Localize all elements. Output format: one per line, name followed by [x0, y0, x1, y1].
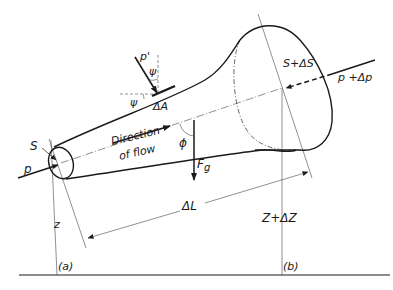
psi-top-arc: [149, 79, 158, 80]
stream-tube-diagram: S p p' ψ ψ ΔA Direction of flow ϕ Fg S+Δ…: [0, 0, 393, 290]
section-b-ellipse-solid: [240, 26, 332, 150]
section-plane-b: [258, 14, 312, 178]
label-p-plus-dp: p +Δp: [337, 71, 372, 84]
label-S: S: [30, 139, 38, 153]
label-psi-left: ψ: [130, 96, 138, 109]
label-delta-A: ΔA: [152, 100, 168, 113]
label-S-plus-dS: S+ΔS: [283, 57, 314, 70]
tube-lower-edge: [66, 150, 296, 179]
label-z: z: [53, 218, 60, 231]
phi-angle-arc: [180, 124, 194, 136]
label-Fg: Fg: [197, 157, 210, 173]
delta-L-dim-left: [88, 211, 180, 238]
section-plane-a: [49, 139, 86, 248]
label-p: p: [23, 162, 32, 176]
label-phi: ϕ: [179, 136, 187, 150]
delta-L-dim-right: [205, 172, 308, 203]
label-Z-plus-dZ: Z+ΔZ: [261, 211, 297, 225]
label-p-prime: p': [139, 50, 150, 63]
label-psi-top: ψ: [149, 65, 157, 78]
label-section-a: (a): [58, 260, 73, 273]
psi-left-arc: [143, 94, 144, 99]
label-delta-L: ΔL: [181, 199, 197, 213]
label-g-subscript: g: [204, 162, 210, 173]
label-section-b: (b): [283, 260, 299, 273]
